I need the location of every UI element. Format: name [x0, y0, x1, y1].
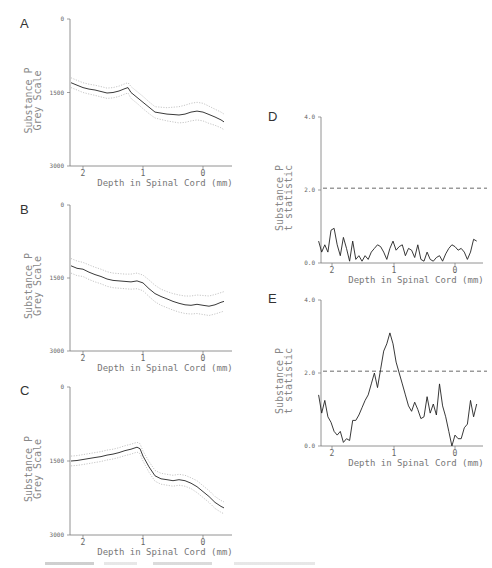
data-line — [71, 83, 224, 122]
x-tick-label: 0 — [453, 266, 458, 275]
panel-letter-d: D — [268, 109, 277, 124]
x-tick-label: 2 — [81, 354, 86, 363]
x-tick-label: 0 — [453, 449, 458, 458]
x-axis-title: Depth in Spinal Cord (mm) — [348, 275, 483, 285]
panel-b: B 015003000210Depth in Spinal Cord (mm)S… — [20, 201, 233, 373]
figure-caption-cutoff — [45, 562, 315, 565]
panel-letter-a: A — [20, 16, 29, 31]
data-line — [71, 266, 224, 306]
data-line — [319, 333, 477, 446]
panel-letter-c: C — [20, 383, 29, 398]
x-tick-label: 2 — [330, 266, 335, 275]
y-tick-label: 3000 — [50, 162, 65, 169]
x-axis-title: Depth in Spinal Cord (mm) — [97, 547, 232, 557]
y-tick-label: 4.0 — [304, 113, 315, 120]
panel-c: C 015003000210Depth in Spinal Cord (mm)S… — [20, 383, 233, 557]
y-tick-label: 0 — [60, 15, 64, 22]
x-tick-label: 1 — [141, 354, 146, 363]
x-tick-label: 1 — [141, 169, 146, 178]
panel-d: D 0.02.04.0210Depth in Spinal Cord (mm)S… — [268, 109, 487, 285]
confidence-bound-line — [71, 273, 224, 315]
confidence-bound-line — [71, 259, 224, 297]
panel-letter-e: E — [268, 291, 277, 306]
confidence-bound-line — [71, 78, 224, 114]
x-axis-title: Depth in Spinal Cord (mm) — [348, 458, 483, 468]
data-line — [319, 228, 477, 261]
x-tick-label: 0 — [201, 354, 206, 363]
y-tick-label: 3000 — [50, 531, 65, 538]
confidence-bound-line — [71, 442, 224, 502]
x-axis-title: Depth in Spinal Cord (mm) — [97, 363, 232, 373]
x-tick-label: 2 — [81, 538, 86, 547]
y-tick-label: 2.0 — [304, 186, 315, 193]
y-axis-title-line2: Grey Scale — [32, 70, 43, 130]
y-tick-label: 1500 — [50, 457, 65, 464]
y-tick-label: 4.0 — [304, 296, 315, 303]
y-axis-title-line2: Grey Scale — [32, 439, 43, 499]
x-tick-label: 1 — [392, 266, 397, 275]
y-tick-label: 0 — [60, 201, 64, 208]
x-tick-label: 1 — [392, 449, 397, 458]
y-tick-label: 1500 — [50, 89, 65, 96]
confidence-bound-line — [71, 88, 224, 130]
x-tick-label: 2 — [330, 449, 335, 458]
y-tick-label: 0 — [60, 383, 64, 390]
figure-canvas: A 015003000210Depth in Spinal Cord (mm)S… — [0, 0, 492, 568]
x-tick-label: 1 — [141, 538, 146, 547]
x-axis-title: Depth in Spinal Cord (mm) — [97, 178, 232, 188]
y-axis-title-line2: t statistic — [283, 165, 294, 231]
y-tick-label: 2.0 — [304, 369, 315, 376]
confidence-bound-line — [71, 452, 224, 514]
panel-e: E 0.02.04.0210Depth in Spinal Cord (mm)S… — [268, 291, 487, 468]
y-axis-title-line2: t statistic — [283, 348, 294, 414]
x-tick-label: 2 — [81, 169, 86, 178]
y-axis-title-line2: Grey Scale — [32, 256, 43, 316]
y-tick-label: 3000 — [50, 347, 65, 354]
data-line — [71, 447, 224, 508]
y-tick-label: 1500 — [50, 274, 65, 281]
x-tick-label: 0 — [201, 169, 206, 178]
panel-letter-b: B — [20, 202, 29, 217]
panel-a: A 015003000210Depth in Spinal Cord (mm)S… — [20, 15, 233, 188]
y-tick-label: 0.0 — [304, 259, 315, 266]
y-tick-label: 0.0 — [304, 442, 315, 449]
x-tick-label: 0 — [201, 538, 206, 547]
